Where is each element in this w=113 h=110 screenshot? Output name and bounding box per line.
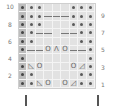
purl-dot-icon: [38, 23, 41, 26]
purl-dot-icon: [21, 40, 24, 43]
chart-cell: O: [44, 80, 52, 88]
row-label: 5: [98, 46, 108, 53]
chart-cell: [87, 38, 95, 46]
cable-cross-icon: [61, 33, 68, 34]
chart-cell: [78, 4, 86, 12]
purl-dot-icon: [72, 23, 75, 26]
purl-dot-icon: [89, 40, 92, 43]
purl-dot-icon: [89, 23, 92, 26]
chart-cell: [78, 80, 86, 88]
chart-cell: [27, 71, 35, 79]
chart-cell: [19, 12, 27, 20]
chart-cell: [36, 12, 44, 20]
chart-cell: [19, 46, 27, 54]
repeat-marker-left: [25, 95, 27, 106]
decrease-icon: ◺: [37, 80, 42, 87]
chart-cell: O: [61, 46, 69, 54]
cable-cross-icon: [78, 50, 85, 51]
chart-cell: ◿: [78, 63, 86, 71]
yarn-over-icon: O: [37, 63, 43, 70]
purl-dot-icon: [30, 73, 33, 76]
purl-dot-icon: [72, 15, 75, 18]
chart-cell: [53, 12, 61, 20]
cable-cross-icon: [36, 50, 43, 51]
chart-cell: Λ: [53, 46, 61, 54]
purl-dot-icon: [89, 6, 92, 9]
chart-cell: [53, 71, 61, 79]
chart-cell: [70, 29, 78, 37]
decrease-icon: ◿: [79, 63, 84, 70]
chart-cell: [53, 80, 61, 88]
chart-cell: [27, 80, 35, 88]
chart-cell: ◿: [70, 80, 78, 88]
chart-cell: [44, 54, 52, 62]
purl-dot-icon: [21, 6, 24, 9]
purl-dot-icon: [89, 57, 92, 60]
chart-cell: [36, 29, 44, 37]
cable-cross-icon: [44, 16, 51, 17]
chart-cell: [44, 63, 52, 71]
chart-cell: [19, 21, 27, 29]
purl-dot-icon: [21, 15, 24, 18]
chart-cell: [61, 4, 69, 12]
row-label: 10: [5, 3, 15, 10]
chart-cell: [61, 29, 69, 37]
yarn-over-icon: O: [62, 80, 68, 87]
chart-cell: [44, 12, 52, 20]
chart-cell: [44, 4, 52, 12]
chart-cell: [27, 38, 35, 46]
row-label: 1: [98, 81, 108, 88]
row-label: 7: [98, 29, 108, 36]
chart-cell: [70, 4, 78, 12]
row-label: 8: [5, 21, 15, 28]
chart-cell: [70, 46, 78, 54]
row-label: 9: [98, 12, 108, 19]
cable-cross-icon: [27, 50, 34, 51]
purl-dot-icon: [30, 82, 33, 85]
purl-dot-icon: [80, 73, 83, 76]
chart-cell: [78, 12, 86, 20]
chart-cell: [53, 21, 61, 29]
yarn-over-icon: O: [45, 80, 51, 87]
chart-cell: O: [36, 63, 44, 71]
purl-dot-icon: [72, 6, 75, 9]
chart-cell: [19, 4, 27, 12]
purl-dot-icon: [89, 82, 92, 85]
purl-dot-icon: [80, 82, 83, 85]
decrease-icon: ◿: [71, 80, 76, 87]
chart-cell: [78, 38, 86, 46]
knitting-chart-grid: OΛO◺OO◿◺OO◿: [18, 3, 96, 89]
chart-cell: O: [61, 80, 69, 88]
yarn-over-icon: O: [71, 63, 77, 70]
row-label: 2: [5, 72, 15, 79]
chart-cell: [70, 21, 78, 29]
purl-dot-icon: [30, 40, 33, 43]
purl-dot-icon: [38, 6, 41, 9]
purl-dot-icon: [80, 40, 83, 43]
purl-dot-icon: [30, 31, 33, 34]
row-label: 6: [5, 38, 15, 45]
chart-cell: [27, 12, 35, 20]
chart-cell: [36, 46, 44, 54]
chart-cell: [61, 54, 69, 62]
chart-cell: [78, 46, 86, 54]
double-decrease-icon: Λ: [54, 46, 59, 53]
chart-cell: [78, 71, 86, 79]
purl-dot-icon: [21, 48, 24, 51]
purl-dot-icon: [80, 15, 83, 18]
chart-cell: [70, 38, 78, 46]
chart-cell: [44, 29, 52, 37]
chart-cell: [36, 38, 44, 46]
chart-cell: [19, 38, 27, 46]
chart-cell: [27, 4, 35, 12]
chart-cell: [87, 80, 95, 88]
chart-cell: [61, 12, 69, 20]
row-label: 3: [98, 64, 108, 71]
cable-cross-icon: [53, 16, 60, 17]
cable-cross-icon: [44, 33, 51, 34]
purl-dot-icon: [80, 23, 83, 26]
row-label: 4: [5, 55, 15, 62]
chart-cell: [87, 71, 95, 79]
chart-cell: [87, 63, 95, 71]
purl-dot-icon: [30, 6, 33, 9]
